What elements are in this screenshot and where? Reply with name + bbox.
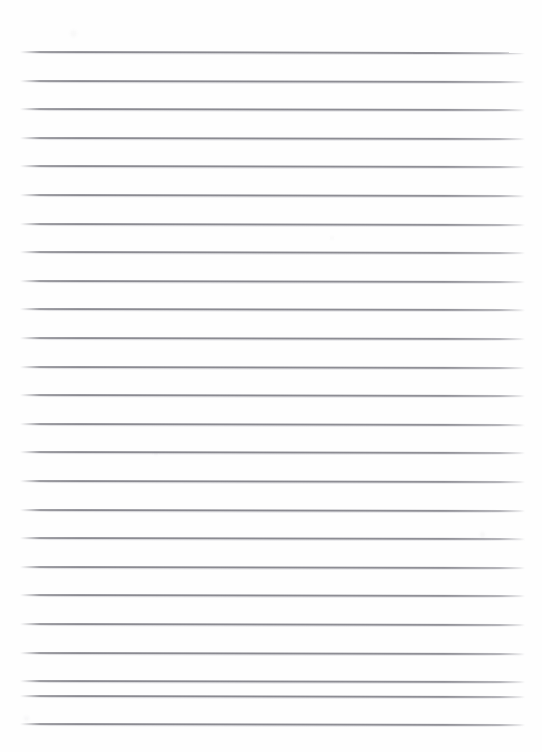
writing-area[interactable]: [20, 24, 525, 736]
scanned-paper-page: [0, 0, 542, 752]
